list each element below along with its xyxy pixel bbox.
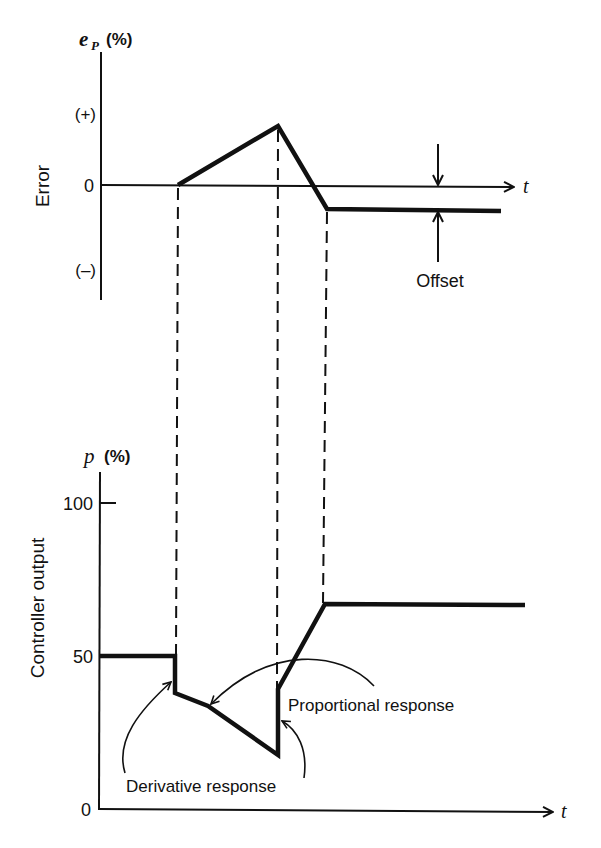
error-tick-zero: 0 [84, 176, 94, 196]
guide-line-2 [277, 130, 278, 688]
output-tick-50: 50 [73, 647, 93, 667]
output-tick-0: 0 [81, 800, 91, 820]
derivative-arrow-left-icon [123, 682, 171, 773]
error-tick-minus: (–) [75, 261, 96, 280]
output-y-title: Controller output [27, 537, 48, 678]
output-y-axis [99, 472, 100, 810]
output-y-symbol: p [82, 444, 95, 468]
derivative-arrow-right-icon [282, 721, 305, 778]
output-plot: p (%) Controller output 100 50 0 t Propo… [27, 444, 567, 822]
error-y-title: Error [32, 164, 53, 207]
derivative-response-label: Derivative response [126, 777, 276, 796]
output-time-axis [99, 809, 553, 812]
output-tick-100: 100 [63, 494, 93, 514]
error-y-subscript: P [91, 38, 100, 53]
error-plot: e P (%) Error (+) 0 (–) t Offset [32, 27, 529, 300]
output-y-unit: (%) [104, 447, 130, 466]
error-tick-plus: (+) [75, 105, 96, 124]
proportional-response-label: Proportional response [288, 696, 454, 715]
error-y-unit: (%) [106, 30, 132, 49]
error-y-symbol: e [79, 27, 88, 51]
output-x-symbol: t [561, 800, 567, 822]
offset-label: Offset [416, 271, 464, 291]
time-guide-lines [176, 130, 327, 688]
pd-controller-diagram: e P (%) Error (+) 0 (–) t Offset p (%) [0, 0, 601, 848]
controller-output-curve [100, 604, 525, 755]
error-time-axis [101, 185, 514, 187]
guide-line-1 [176, 188, 178, 655]
error-x-symbol: t [523, 175, 529, 197]
error-curve [178, 126, 501, 211]
guide-line-3 [323, 212, 327, 603]
